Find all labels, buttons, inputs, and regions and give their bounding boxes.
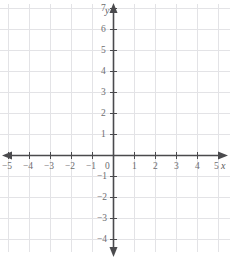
x-axis-name-label: x	[221, 161, 225, 171]
x-tick-label--4: −4	[23, 162, 33, 172]
y-tick-label-4: 4	[101, 67, 106, 77]
grid-lines-horizontal	[0, 9, 230, 240]
x-tick-label--2: −2	[65, 162, 75, 172]
y-tick-label--2: −2	[97, 193, 107, 203]
x-tick-label-5: 5	[214, 162, 219, 172]
y-tick-label-1: 1	[101, 130, 106, 140]
y-tick-label-3: 3	[101, 88, 106, 98]
y-axis-name-label: y	[105, 6, 109, 16]
x-tick-label-1: 1	[132, 162, 137, 172]
x-tick-label-4: 4	[195, 162, 200, 172]
y-axis-down-arrowhead	[110, 247, 118, 257]
y-tick-label--1: −1	[97, 172, 107, 182]
y-tick-label-6: 6	[101, 25, 106, 35]
coordinate-plane: −5 −4 −3 −2 −1 1 2 3 4 5 0 7 6 5 4 3 2 1…	[0, 0, 230, 259]
y-tick-label--4: −4	[97, 235, 107, 245]
y-tick-label-5: 5	[101, 46, 106, 56]
coordinate-grid-svg	[0, 0, 230, 259]
x-axis-left-arrowhead	[2, 152, 12, 160]
y-tick-label--3: −3	[97, 214, 107, 224]
x-axis-right-arrowhead	[218, 152, 228, 160]
x-tick-label--5: −5	[2, 162, 12, 172]
x-tick-label-3: 3	[174, 162, 179, 172]
y-tick-label-2: 2	[101, 109, 106, 119]
x-tick-label-2: 2	[153, 162, 158, 172]
x-tick-label--3: −3	[44, 162, 54, 172]
x-axis-line	[2, 152, 228, 160]
x-tick-label--1: −1	[86, 162, 96, 172]
